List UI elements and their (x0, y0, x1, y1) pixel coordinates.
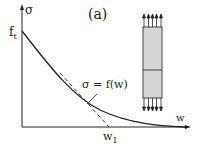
specimen (143, 14, 163, 111)
x-arrow-icon (185, 125, 191, 129)
tension-arrows-bottom-icon (143, 98, 163, 111)
x-axis-label: w (176, 113, 185, 123)
curve-label-leader (87, 94, 97, 104)
x-tick-label: w1 (103, 131, 118, 145)
panel-label: (a) (88, 7, 107, 21)
y-arrow-icon (20, 4, 24, 10)
y-axis-label: σ (25, 4, 33, 16)
y-tick-label: ft (9, 26, 17, 41)
curve-label: σ = f(w) (82, 79, 128, 90)
tension-arrows-top-icon (143, 14, 163, 27)
diagram-canvas (0, 0, 198, 153)
axes (22, 8, 188, 127)
